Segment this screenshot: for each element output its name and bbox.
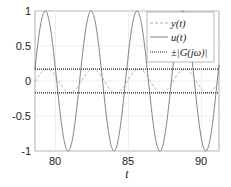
x-axis-label: t — [125, 167, 129, 181]
legend-label-u: u(t) — [171, 32, 187, 44]
chart: 1 0.5 0 -0.5 -1 80 85 90 t y(t) u(t) ±|G… — [0, 0, 231, 187]
ytick-label: 0.5 — [16, 40, 31, 52]
ytick-label: 0 — [25, 75, 31, 87]
xtick-label: 80 — [49, 155, 61, 167]
ytick-label: 1 — [25, 5, 31, 17]
legend-label-y: y(t) — [170, 18, 186, 30]
legend: y(t) u(t) ±|G(jω)| — [147, 12, 214, 62]
ytick-label: -0.5 — [12, 110, 31, 122]
legend-label-g: ±|G(jω)| — [171, 47, 207, 59]
ytick-label: -1 — [21, 145, 31, 157]
xtick-label: 90 — [195, 155, 207, 167]
xtick-label: 85 — [122, 155, 134, 167]
